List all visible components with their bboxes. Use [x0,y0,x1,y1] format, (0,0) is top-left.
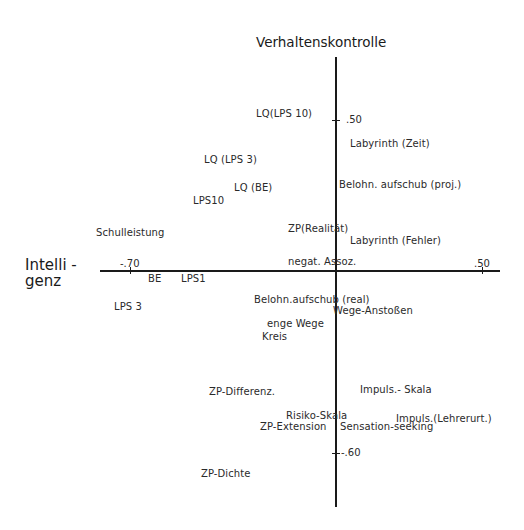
variable-label: Wege-Anstoßen [333,306,413,316]
variable-label: Schulleistung [96,228,164,238]
variable-label: Impuls.- Skala [360,385,432,395]
variable-label: Sensation-seeking [340,422,433,432]
tick-label-v-pos: .50 [346,115,362,125]
tick-v-pos [332,120,340,121]
variable-label: ZP-Dichte [201,469,251,479]
variable-label: LPS1 [181,274,206,284]
variable-label: LPS 3 [114,302,142,312]
variable-label: LQ(LPS 10) [256,109,312,119]
variable-label: Belohn.aufschub (real) [254,295,370,305]
variable-label: Belohn. aufschub (proj.) [339,180,461,190]
variable-label: Risiko-Skala [286,411,347,421]
tick-label-h-neg: -.70 [120,259,140,269]
variable-label: ZP-Differenz. [209,387,275,397]
variable-label: ZP-Extension [260,422,327,432]
horizontal-axis [100,270,500,272]
horizontal-axis-title-line2: genz [25,274,77,290]
variable-label: Labyrinth (Fehler) [350,236,441,246]
variable-label: Kreis [262,332,287,342]
variable-label: BE [148,274,161,284]
tick-label-h-pos: .50 [474,259,490,269]
tick-v-neg [332,453,340,454]
negative-association-label: negat. Assoz. [288,257,356,267]
vertical-axis-title: Verhaltenskontrolle [256,36,386,50]
variable-label: LQ (LPS 3) [204,155,257,165]
variable-label: enge Wege [267,319,324,329]
horizontal-axis-title: Intelli - genz [25,258,77,290]
tick-label-v-neg: -.60 [341,448,361,458]
variable-label: Labyrinth (Zeit) [350,139,430,149]
variable-label: LPS10 [193,196,224,206]
variable-label: ZP(Realität) [288,224,348,234]
variable-label: LQ (BE) [234,183,272,193]
vertical-axis [335,57,337,507]
